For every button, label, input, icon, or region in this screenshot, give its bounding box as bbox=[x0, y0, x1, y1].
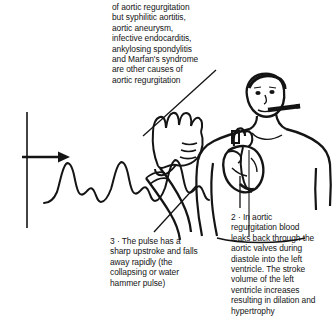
collapsing-pulse-waveform bbox=[44, 160, 209, 203]
eye-left bbox=[255, 91, 260, 95]
eye-right bbox=[269, 90, 274, 94]
note-aortic-regurgitation-mechanism: 2 · In aortic regurgitation blood leaks … bbox=[231, 212, 335, 316]
note-causes-of-aortic-regurgitation: of aortic regurgitation but syphilitic a… bbox=[112, 2, 240, 85]
cigarette-in-mouth bbox=[268, 106, 300, 110]
note-collapsing-pulse: 3 · The pulse has a sharp upstroke and f… bbox=[110, 236, 228, 288]
aortic-regurgitation-figure: of aortic regurgitation but syphilitic a… bbox=[0, 0, 335, 333]
hand-palpating-wrist-pulse bbox=[146, 113, 203, 240]
rightward-pointing-arrow bbox=[22, 152, 70, 163]
